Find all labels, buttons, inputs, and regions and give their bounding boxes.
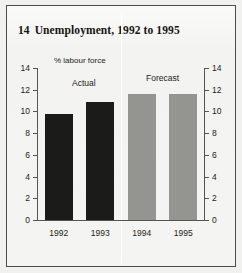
y-tick-left-10 bbox=[33, 111, 37, 112]
x-axis-label-1993: 1993 bbox=[80, 228, 120, 238]
bar-1994 bbox=[128, 94, 156, 220]
figure-title: 14Unemployment, 1992 to 1995 bbox=[18, 24, 180, 36]
y-tick-label-left-0: 0 bbox=[8, 216, 30, 225]
figure-unemployment-chart: 14Unemployment, 1992 to 1995 % labour fo… bbox=[0, 0, 242, 273]
y-tick-label-right-4: 4 bbox=[212, 173, 234, 182]
y-tick-left-4 bbox=[33, 177, 37, 178]
y-tick-left-2 bbox=[33, 198, 37, 199]
y-tick-label-right-6: 6 bbox=[212, 151, 234, 160]
y-tick-label-left-14: 14 bbox=[8, 64, 30, 73]
y-tick-left-14 bbox=[33, 68, 37, 69]
y-tick-label-right-10: 10 bbox=[212, 107, 234, 116]
y-tick-left-0 bbox=[33, 220, 37, 221]
y-tick-left-6 bbox=[33, 155, 37, 156]
x-axis-label-1994: 1994 bbox=[122, 228, 162, 238]
y-tick-left-12 bbox=[33, 90, 37, 91]
bar-1995 bbox=[169, 94, 197, 220]
y-tick-right-0 bbox=[205, 220, 209, 221]
y-tick-label-left-2: 2 bbox=[8, 194, 30, 203]
figure-number: 14 bbox=[18, 24, 30, 36]
y-tick-right-14 bbox=[205, 68, 209, 69]
y-tick-right-2 bbox=[205, 198, 209, 199]
figure-title-text: Unemployment, 1992 to 1995 bbox=[35, 24, 180, 36]
x-axis-label-1992: 1992 bbox=[39, 228, 79, 238]
y-tick-label-left-4: 4 bbox=[8, 173, 30, 182]
bar-1992 bbox=[45, 114, 73, 220]
plot-area: 14121086420 14121086420 1992199319941995 bbox=[38, 68, 204, 220]
bar-1993 bbox=[86, 102, 114, 220]
y-tick-label-left-8: 8 bbox=[8, 129, 30, 138]
y-tick-left-8 bbox=[33, 133, 37, 134]
y-tick-label-right-0: 0 bbox=[212, 216, 234, 225]
y-tick-right-10 bbox=[205, 111, 209, 112]
x-axis-baseline bbox=[34, 220, 208, 221]
x-axis-label-1995: 1995 bbox=[163, 228, 203, 238]
y-tick-right-4 bbox=[205, 177, 209, 178]
y-axis-right-spine bbox=[204, 68, 205, 220]
y-tick-label-right-2: 2 bbox=[212, 194, 234, 203]
y-tick-label-left-6: 6 bbox=[8, 151, 30, 160]
y-axis-left-spine bbox=[37, 68, 38, 220]
y-tick-label-left-10: 10 bbox=[8, 107, 30, 116]
y-tick-right-12 bbox=[205, 90, 209, 91]
y-tick-right-8 bbox=[205, 133, 209, 134]
y-tick-label-left-12: 12 bbox=[8, 86, 30, 95]
y-tick-label-right-14: 14 bbox=[212, 64, 234, 73]
y-tick-label-right-8: 8 bbox=[212, 129, 234, 138]
y-tick-right-6 bbox=[205, 155, 209, 156]
y-tick-label-right-12: 12 bbox=[212, 86, 234, 95]
y-axis-caption: % labour force bbox=[54, 56, 106, 65]
